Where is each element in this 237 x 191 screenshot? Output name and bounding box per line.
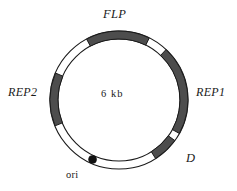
- marker-label-ori: ori: [66, 170, 79, 181]
- plasmid-size-label: 6 kb: [101, 89, 123, 100]
- plasmid-segment-flp: [87, 31, 150, 46]
- plasmid-segment-rep1: [161, 50, 188, 134]
- segment-label-rep1: REP1: [196, 86, 225, 98]
- segment-label-flp: FLP: [103, 8, 126, 21]
- plasmid-marker-ori: [89, 155, 97, 163]
- plasmid-segment-d: [151, 136, 174, 159]
- segment-label-d: D: [186, 152, 195, 165]
- segment-label-rep2: REP2: [8, 86, 37, 98]
- plasmid-inner-circle: [58, 39, 180, 161]
- plasmid-marker-layer: [89, 155, 97, 163]
- plasmid-segment-rep2: [50, 73, 63, 126]
- plasmid-map-figure: FLP REP1 REP2 D ori 6 kb: [0, 0, 237, 191]
